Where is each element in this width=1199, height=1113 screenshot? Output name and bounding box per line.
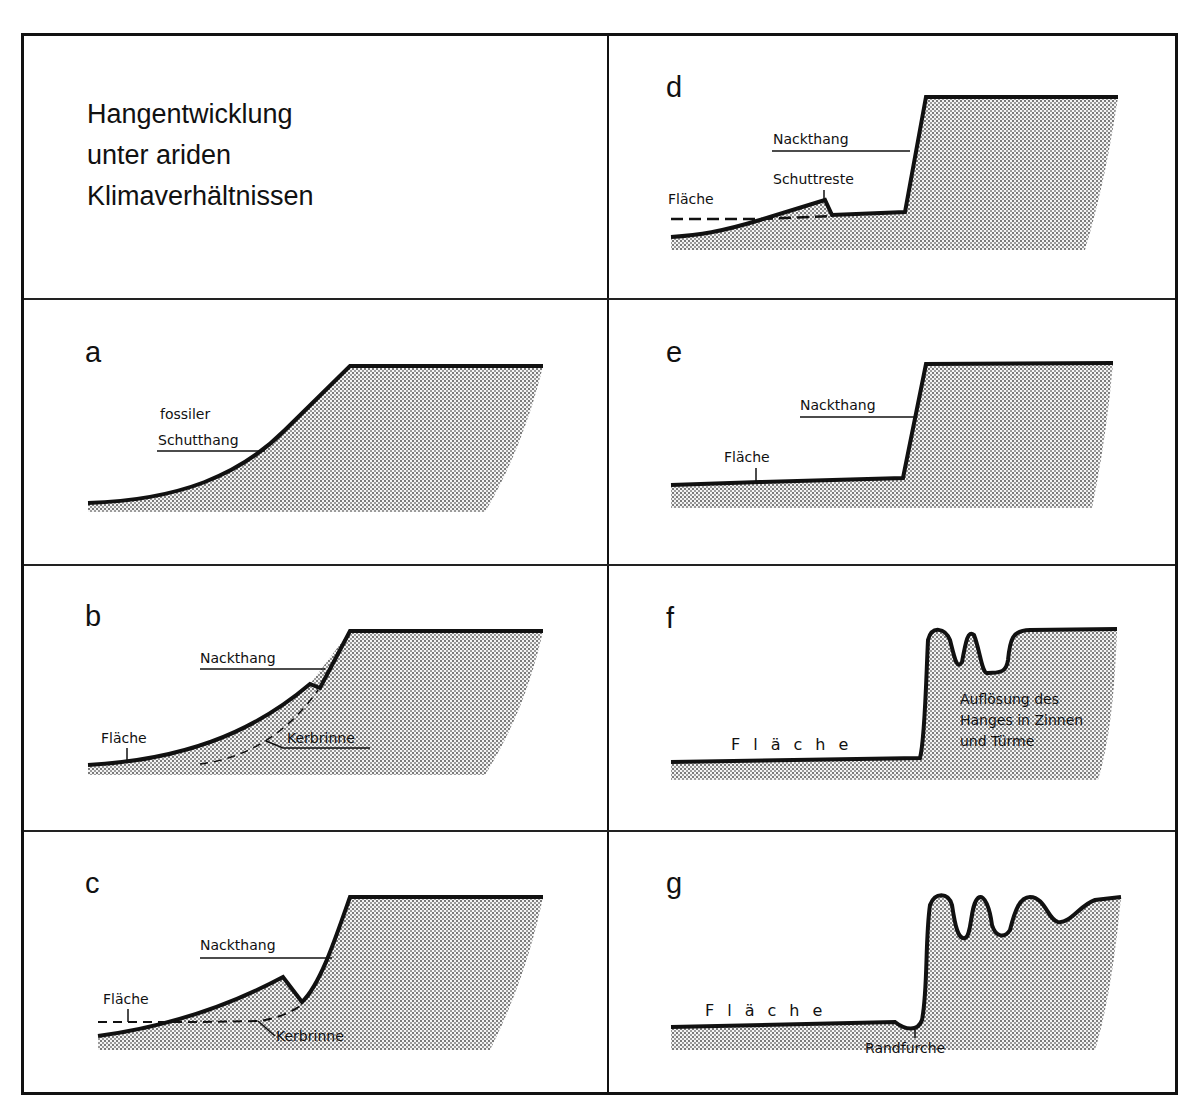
label-fossiler: fossiler [160, 406, 210, 422]
panel-letter-c: c [85, 867, 100, 899]
label-flaeche: Fläche [101, 730, 147, 746]
panel-letter-b: b [85, 600, 101, 632]
label-nackthang: Nackthang [773, 131, 849, 147]
label-kerbrinne: Kerbrinne [287, 730, 355, 746]
slope-diagrams: a fossiler Schutthang b Nackthang Fläche… [0, 0, 1199, 1113]
label-aufloesung-2: Hanges in Zinnen [960, 712, 1083, 728]
panel-letter-a: a [85, 336, 102, 368]
label-flaeche: Fläche [668, 191, 714, 207]
label-nackthang: Nackthang [200, 937, 276, 953]
label-aufloesung-3: und Türme [960, 733, 1034, 749]
label-kerbrinne: Kerbrinne [276, 1028, 344, 1044]
label-flaeche: Fläche [103, 991, 149, 1007]
panel-c: c Nackthang Fläche Kerbrinne [85, 867, 543, 1050]
panel-a: a fossiler Schutthang [85, 336, 543, 512]
panel-g: g Fläche Randfurche [666, 867, 1121, 1056]
panel-letter-d: d [666, 71, 682, 103]
panel-letter-e: e [666, 336, 682, 368]
panel-letter-g: g [666, 867, 682, 899]
label-flaeche: Fläche [724, 449, 770, 465]
label-aufloesung-1: Auflösung des [960, 691, 1059, 707]
rock-mass [88, 631, 543, 775]
panel-d: d Nackthang Schuttreste Fläche [666, 71, 1118, 250]
label-randfurche: Randfurche [865, 1040, 945, 1056]
label-schuttreste: Schuttreste [773, 171, 854, 187]
label-flaeche: Fläche [731, 735, 861, 754]
panel-e: e Nackthang Fläche [666, 336, 1113, 508]
panel-letter-f: f [666, 602, 675, 634]
label-nackthang: Nackthang [200, 650, 276, 666]
label-nackthang: Nackthang [800, 397, 876, 413]
rock-mass [88, 366, 543, 512]
rock-mass [671, 363, 1113, 508]
panel-f: f Fläche Auflösung des Hanges in Zinnen … [666, 602, 1117, 780]
label-schutthang: Schutthang [158, 432, 239, 448]
panel-b: b Nackthang Fläche Kerbrinne [85, 600, 543, 775]
label-flaeche: Fläche [705, 1001, 835, 1020]
